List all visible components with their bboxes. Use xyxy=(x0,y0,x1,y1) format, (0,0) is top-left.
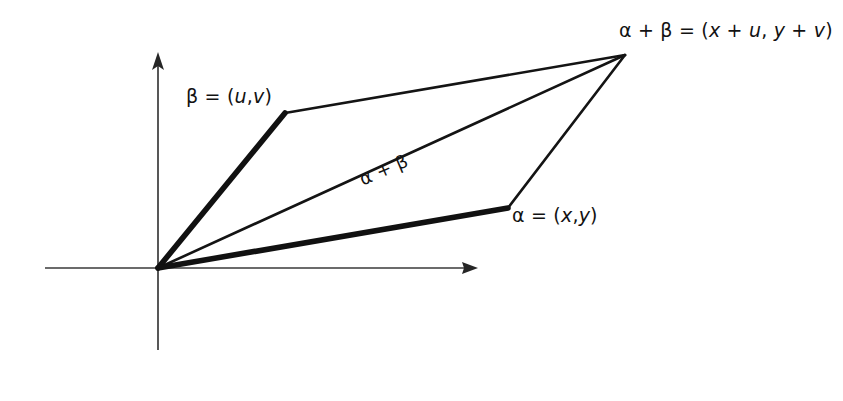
alpha-vector-label: α = (x,y) xyxy=(512,204,598,226)
x-axis-arrowhead xyxy=(462,262,478,274)
sum-point-label: α + β = (x + u, y + v) xyxy=(619,19,833,41)
beta-vector-label: β = (u,v) xyxy=(186,85,272,107)
beta-vector xyxy=(158,113,285,268)
figure-canvas: α + β = (x + u, y + v) β = (u,v) α = (x,… xyxy=(0,0,843,401)
alpha-vector xyxy=(158,208,508,268)
vector-addition-diagram xyxy=(0,0,843,401)
beta-to-sum-side xyxy=(285,55,625,113)
alpha-to-sum-side xyxy=(508,55,625,208)
